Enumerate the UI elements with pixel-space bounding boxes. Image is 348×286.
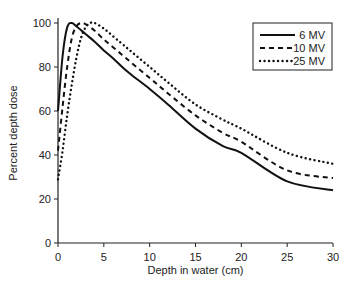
x-tick-label: 15 [189, 251, 201, 263]
legend-label: 10 MV [293, 42, 325, 54]
chart: 020406080100051015202530 6 MV10 MV25 MV … [0, 0, 348, 286]
x-axis-title: Depth in water (cm) [148, 264, 244, 276]
legend-label: 25 MV [293, 55, 325, 67]
y-tick-label: 60 [39, 105, 51, 117]
x-tick-label: 10 [144, 251, 156, 263]
y-tick-label: 20 [39, 193, 51, 205]
x-tick-label: 30 [327, 251, 339, 263]
x-tick-label: 20 [235, 251, 247, 263]
x-tick-label: 0 [55, 251, 61, 263]
y-tick-label: 80 [39, 61, 51, 73]
legend: 6 MV10 MV25 MV [253, 23, 332, 70]
y-axis-title: Percent depth dose [7, 85, 19, 180]
y-tick-label: 100 [33, 17, 51, 29]
x-tick-label: 25 [281, 251, 293, 263]
y-tick-label: 40 [39, 149, 51, 161]
x-tick-label: 5 [101, 251, 107, 263]
y-tick-label: 0 [45, 237, 51, 249]
legend-label: 6 MV [299, 29, 325, 41]
